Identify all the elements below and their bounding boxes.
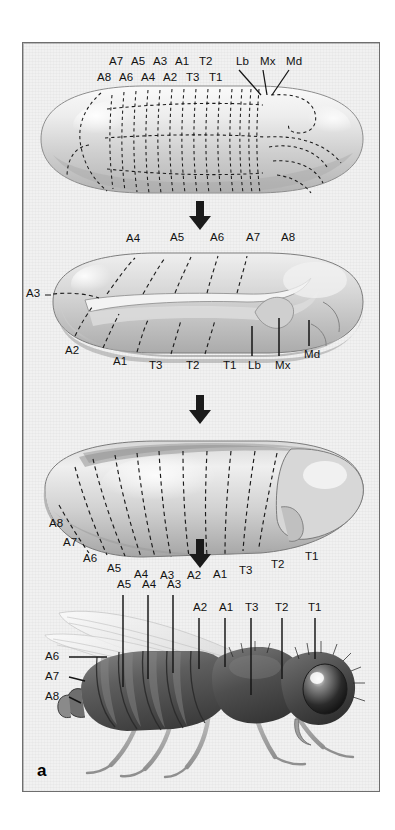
stage-blastoderm-fate-map: A7 A5 A3 A1 T2 Lb Mx Md A8 A6 A4 A2 T3 T… bbox=[23, 43, 379, 213]
label-A7: A7 bbox=[246, 232, 260, 244]
label-A5: A5 bbox=[131, 56, 145, 68]
label-T1: T1 bbox=[209, 72, 223, 84]
label-A8: A8 bbox=[281, 232, 295, 244]
label-A1: A1 bbox=[113, 356, 127, 368]
label-A5: A5 bbox=[117, 579, 131, 591]
label-T1: T1 bbox=[223, 360, 237, 372]
label-T1: T1 bbox=[308, 602, 322, 614]
label-A6: A6 bbox=[45, 651, 59, 663]
label-A2: A2 bbox=[163, 72, 177, 84]
down-arrow-icon bbox=[23, 201, 379, 231]
label-A1: A1 bbox=[219, 602, 233, 614]
label-A2: A2 bbox=[193, 602, 207, 614]
label-T2: T2 bbox=[186, 360, 200, 372]
label-Lb: Lb bbox=[248, 360, 261, 372]
figure-panel: A7 A5 A3 A1 T2 Lb Mx Md A8 A6 A4 A2 T3 T… bbox=[22, 42, 380, 792]
label-T2: T2 bbox=[275, 602, 289, 614]
label-A3: A3 bbox=[26, 288, 40, 300]
adult-fly-illustration bbox=[23, 561, 379, 791]
stage-adult-fly: A5 A4 A3 A2 A1 T3 T2 T1 A6 A7 A8 bbox=[23, 561, 379, 791]
label-A7: A7 bbox=[109, 56, 123, 68]
label-A5: A5 bbox=[170, 232, 184, 244]
label-A8: A8 bbox=[49, 518, 63, 530]
label-Md: Md bbox=[304, 349, 320, 361]
label-T3: T3 bbox=[149, 360, 163, 372]
label-A7: A7 bbox=[45, 671, 59, 683]
down-arrow-icon bbox=[23, 395, 379, 425]
label-T3: T3 bbox=[186, 72, 200, 84]
label-A6: A6 bbox=[210, 232, 224, 244]
stage-germ-band-extended: A4 A5 A6 A7 A8 A3 A2 A1 T3 T2 T1 Lb Mx M… bbox=[23, 228, 379, 388]
label-A8: A8 bbox=[97, 72, 111, 84]
label-A2: A2 bbox=[65, 345, 79, 357]
label-Lb: Lb bbox=[236, 56, 249, 68]
label-T2: T2 bbox=[199, 56, 213, 68]
label-A1: A1 bbox=[175, 56, 189, 68]
label-Mx: Mx bbox=[275, 360, 291, 372]
label-A4: A4 bbox=[126, 233, 140, 245]
label-A4: A4 bbox=[141, 72, 155, 84]
germ-band-extended-illustration bbox=[23, 228, 379, 388]
label-A4: A4 bbox=[142, 579, 156, 591]
panel-letter: a bbox=[37, 761, 46, 781]
label-A8: A8 bbox=[45, 691, 59, 703]
label-A3: A3 bbox=[167, 579, 181, 591]
stage-arrow-1 bbox=[23, 201, 379, 231]
blastoderm-illustration bbox=[23, 43, 379, 213]
label-T3: T3 bbox=[245, 602, 259, 614]
label-A3: A3 bbox=[153, 56, 167, 68]
label-Mx: Mx bbox=[260, 56, 276, 68]
label-Md: Md bbox=[286, 56, 302, 68]
label-A6: A6 bbox=[119, 72, 133, 84]
stage-arrow-2 bbox=[23, 395, 379, 425]
